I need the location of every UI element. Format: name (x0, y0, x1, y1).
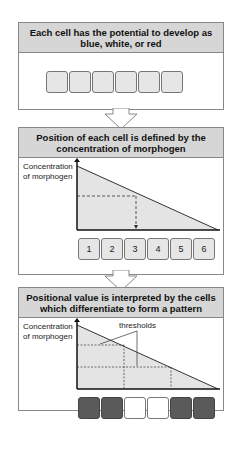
cell-dark (101, 397, 123, 419)
panel-potential: Each cell has the potential to develop a… (18, 22, 224, 110)
cell (92, 71, 114, 93)
cell-dark (78, 397, 100, 419)
cell (138, 71, 160, 93)
cell-3: 3 (124, 238, 146, 260)
cell-white (147, 397, 169, 419)
cell-5: 5 (170, 238, 192, 260)
cell-row-pattern (78, 397, 215, 419)
cell (161, 71, 183, 93)
panel-potential-title: Each cell has the potential to develop a… (19, 23, 223, 53)
cell-6: 6 (193, 238, 215, 260)
cell-row-numbered: 1 2 3 4 5 6 (78, 238, 215, 260)
y-axis-label: Concentration of morphogen (23, 322, 77, 342)
panel-position-title: Position of each cell is defined by the … (19, 128, 223, 158)
cell-white (124, 397, 146, 419)
cell-row-undifferentiated (46, 71, 183, 93)
thresholds-chart (70, 318, 230, 398)
panel-interpretation-title: Positional value is interpreted by the c… (19, 288, 223, 318)
cell-2: 2 (101, 238, 123, 260)
morphogen-gradient-chart (70, 158, 230, 238)
cell (115, 71, 137, 93)
cell (46, 71, 68, 93)
y-axis-label: Concentration of morphogen (23, 162, 77, 182)
cell-dark (193, 397, 215, 419)
cell-4: 4 (147, 238, 169, 260)
cell-1: 1 (78, 238, 100, 260)
cell (69, 71, 91, 93)
cell-dark (170, 397, 192, 419)
